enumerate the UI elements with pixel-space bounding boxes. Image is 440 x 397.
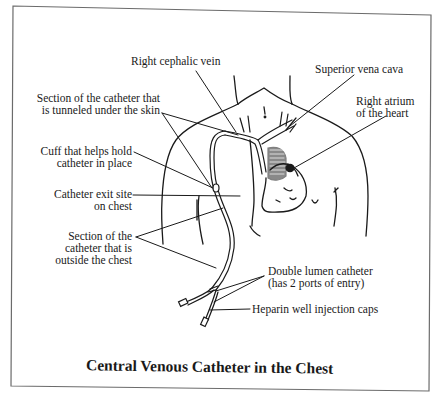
label-double-lumen: Double lumen catheter (has 2 ports of en…: [268, 265, 373, 289]
label-double-lumen-line-2: (has 2 ports of entry): [268, 277, 373, 289]
catheter: [179, 131, 235, 326]
label-tunneled-section: Section of the catheter that is tunneled…: [26, 92, 160, 116]
body-outline: [162, 76, 368, 244]
catheter-diagram: Right cephalic vein Superior vena cava S…: [0, 0, 440, 397]
label-outside-line-2: catheter that is: [22, 242, 132, 254]
label-tunneled-line-1: Section of the catheter that: [26, 92, 160, 104]
label-exit-site-line-1: Catheter exit site: [22, 188, 132, 200]
label-right-cephalic-vein: Right cephalic vein: [131, 55, 220, 67]
label-right-atrium-line-2: of the heart: [356, 107, 414, 119]
label-outside-line-3: outside the chest: [22, 254, 132, 266]
label-right-atrium-line-1: Right atrium: [356, 95, 414, 107]
label-right-atrium: Right atrium of the heart: [356, 95, 414, 119]
label-tunneled-line-2: is tunneled under the skin: [26, 104, 160, 116]
label-superior-vena-cava: Superior vena cava: [315, 63, 403, 75]
diagram-title: Central Venous Catheter in the Chest: [86, 356, 334, 377]
label-outside-line-1: Section of the: [22, 230, 132, 242]
label-exit-site-line-2: on chest: [22, 200, 132, 212]
label-heparin-caps: Heparin well injection caps: [252, 303, 378, 315]
veins: [225, 112, 296, 180]
label-exit-site: Catheter exit site on chest: [22, 188, 132, 212]
label-double-lumen-line-1: Double lumen catheter: [268, 265, 373, 277]
label-cuff-line-2: catheter in place: [22, 157, 132, 169]
label-outside-section: Section of the catheter that is outside …: [22, 230, 132, 266]
label-cuff-line-1: Cuff that helps hold: [22, 145, 132, 157]
label-cuff: Cuff that helps hold catheter in place: [22, 145, 132, 169]
